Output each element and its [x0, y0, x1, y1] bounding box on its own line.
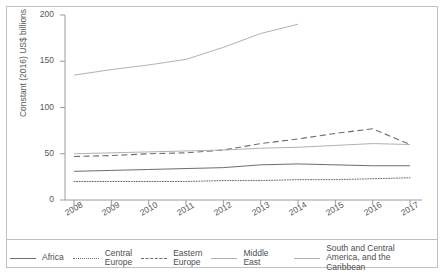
y-axis-tick-label: 50: [26, 148, 54, 158]
series-line: [74, 24, 298, 75]
solid-line-icon: [10, 254, 36, 263]
solid-line-light-icon: [294, 254, 320, 263]
y-axis-tick-label: 0: [26, 194, 54, 204]
legend-item-label: Eastern Europe: [173, 249, 202, 268]
legend-item[interactable]: Middle East: [211, 249, 285, 268]
dotted-line-icon: [73, 254, 99, 263]
legend-item[interactable]: Africa: [10, 253, 64, 263]
y-axis-tick-label: 100: [26, 102, 54, 112]
series-line: [74, 164, 410, 171]
legend-item-label: South and Central America, and the Carib…: [326, 244, 427, 273]
legend-item[interactable]: Eastern Europe: [141, 249, 202, 268]
legend-item[interactable]: Central Europe: [73, 249, 132, 268]
line-chart: [0, 0, 446, 275]
y-axis-tick-label: 200: [26, 9, 54, 19]
series-line: [74, 144, 410, 154]
legend-divider: [7, 239, 438, 240]
series-line: [74, 178, 410, 182]
dashed-line-icon: [141, 254, 167, 263]
chart-legend: AfricaCentral EuropeEastern EuropeMiddle…: [10, 244, 436, 272]
solid-line-light-icon: [211, 254, 237, 263]
legend-item[interactable]: South and Central America, and the Carib…: [294, 244, 427, 273]
y-axis-tick-label: 150: [26, 55, 54, 65]
legend-item-label: Africa: [42, 253, 64, 263]
chart-plot-area: Constant (2016) US$ billions 05010015020…: [0, 0, 446, 275]
legend-item-label: Middle East: [243, 249, 285, 268]
legend-item-label: Central Europe: [105, 249, 132, 268]
